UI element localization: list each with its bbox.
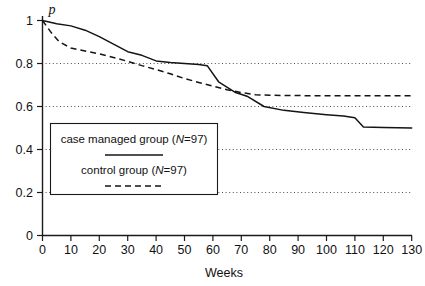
y-tick-label-0.2: 0.2 bbox=[16, 186, 33, 200]
y-tick-label-0.4: 0.4 bbox=[16, 143, 33, 157]
x-tick-label-110: 110 bbox=[345, 243, 365, 257]
series-control-line bbox=[43, 21, 412, 96]
data-series bbox=[43, 21, 412, 129]
legend-tail-control: =97) bbox=[164, 164, 188, 176]
x-tick-label-30: 30 bbox=[121, 243, 135, 257]
x-tick-label-20: 20 bbox=[92, 243, 106, 257]
x-tick-label-10: 10 bbox=[64, 243, 78, 257]
x-tick-label-100: 100 bbox=[316, 243, 337, 257]
x-tick-label-0: 0 bbox=[39, 243, 46, 257]
legend-text-control: control group ( bbox=[81, 164, 155, 176]
legend-tail-case: =97) bbox=[184, 133, 208, 145]
survival-curve-chart: 1 0.8 0.6 0.4 0.2 0 p 0 10 2 bbox=[0, 0, 425, 286]
legend: case managed group (N=97) control group … bbox=[51, 124, 218, 195]
y-axis-label: p bbox=[48, 2, 56, 17]
x-tick-label-40: 40 bbox=[149, 243, 163, 257]
y-tick-label-0.6: 0.6 bbox=[16, 100, 33, 114]
x-tick-label-120: 120 bbox=[373, 243, 394, 257]
x-tick-label-60: 60 bbox=[206, 243, 220, 257]
x-axis: 0 10 20 30 40 50 60 70 80 90 100 110 120… bbox=[39, 236, 422, 281]
x-axis-label: Weeks bbox=[205, 266, 243, 280]
figure-container: 1 0.8 0.6 0.4 0.2 0 p 0 10 2 bbox=[0, 0, 425, 286]
x-tick-label-90: 90 bbox=[291, 243, 305, 257]
y-tick-label-0: 0 bbox=[26, 229, 33, 243]
legend-label-control: control group (N=97) bbox=[81, 164, 187, 176]
x-tick-label-130: 130 bbox=[401, 243, 422, 257]
y-axis: 1 0.8 0.6 0.4 0.2 0 p bbox=[16, 2, 56, 243]
x-tick-label-80: 80 bbox=[263, 243, 277, 257]
legend-text-case-managed: case managed group ( bbox=[61, 133, 176, 145]
x-tick-label-70: 70 bbox=[234, 243, 248, 257]
y-tick-label-0.8: 0.8 bbox=[16, 57, 33, 71]
series-case-managed-line bbox=[43, 21, 412, 129]
x-tick-label-50: 50 bbox=[178, 243, 192, 257]
y-tick-label-1: 1 bbox=[26, 14, 33, 28]
legend-label-case-managed: case managed group (N=97) bbox=[61, 133, 208, 145]
